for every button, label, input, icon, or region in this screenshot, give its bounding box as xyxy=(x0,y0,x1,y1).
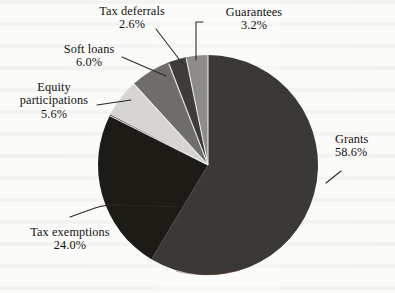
label-grants: Grants 58.6% xyxy=(335,133,393,160)
label-tax-exemptions-percent: 24.0% xyxy=(6,239,134,252)
label-tax-deferrals: Tax deferrals 2.6% xyxy=(72,5,192,32)
label-grants-name: Grants xyxy=(335,132,368,146)
label-tax-exemptions-name: Tax exemptions xyxy=(30,225,109,239)
leader-line-tax-deferrals xyxy=(156,29,182,63)
label-soft-loans-name: Soft loans xyxy=(64,42,115,56)
label-equity-participations-percent: 5.6% xyxy=(2,108,106,121)
label-guarantees-name: Guarantees xyxy=(226,5,282,19)
leader-line-guarantees xyxy=(196,22,203,60)
label-guarantees-percent: 3.2% xyxy=(205,19,303,32)
label-grants-percent: 58.6% xyxy=(335,146,393,159)
label-tax-deferrals-percent: 2.6% xyxy=(72,18,192,31)
label-tax-deferrals-name: Tax deferrals xyxy=(99,4,165,18)
pie-chart-figure: Tax deferrals 2.6% Guarantees 3.2% Soft … xyxy=(0,0,395,293)
label-equity-participations-name-line2: participations xyxy=(2,94,106,107)
label-guarantees: Guarantees 3.2% xyxy=(205,6,303,33)
label-equity-participations-name-line1: Equity xyxy=(37,80,70,94)
label-equity-participations: Equity participations 5.6% xyxy=(2,81,106,121)
label-soft-loans: Soft loans 6.0% xyxy=(39,43,139,70)
label-soft-loans-percent: 6.0% xyxy=(39,56,139,69)
label-tax-exemptions: Tax exemptions 24.0% xyxy=(6,226,134,253)
leader-line-grants xyxy=(326,171,341,183)
